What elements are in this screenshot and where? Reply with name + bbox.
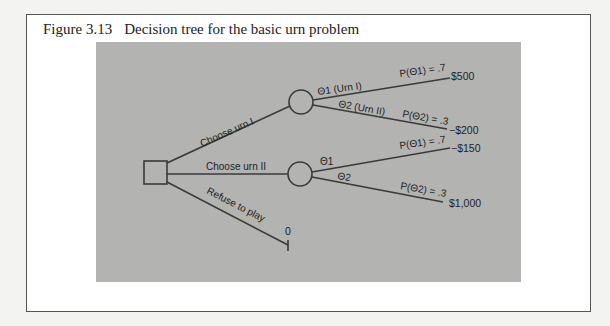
chance-node-urn-2 xyxy=(288,162,312,186)
payoff-1-1: $500 xyxy=(451,70,475,82)
decision-tree: Choose urn I Choose urn II Refuse to pla… xyxy=(0,0,610,326)
state-1-1: Θ1 (Urn I) xyxy=(317,80,363,97)
label-choose-urn-1: Choose urn I xyxy=(198,115,255,148)
decision-node-square xyxy=(144,161,167,184)
payoff-1-2: −$200 xyxy=(449,124,479,136)
prob-1-1: P(Θ1) = .7 xyxy=(399,62,447,79)
payoff-refuse: 0 xyxy=(285,225,291,237)
state-2-2: Θ2 xyxy=(337,170,352,183)
payoff-2-2: $1,000 xyxy=(449,197,481,209)
label-choose-urn-2: Choose urn II xyxy=(206,161,266,172)
chance-node-urn-1 xyxy=(289,90,313,114)
prob-1-2: P(Θ2) = .3 xyxy=(402,108,450,127)
prob-2-2: P(Θ2) = .3 xyxy=(400,180,448,199)
branch-refuse xyxy=(167,182,288,245)
state-2-1: Θ1 xyxy=(320,156,334,167)
payoff-2-1: −$150 xyxy=(451,142,481,154)
prob-2-1: P(Θ1) = .7 xyxy=(399,134,447,151)
